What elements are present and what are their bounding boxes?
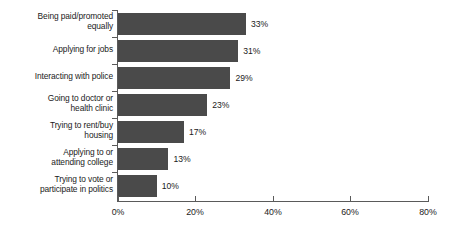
category-label: Trying to vote or participate in politic… xyxy=(0,174,113,195)
x-axis-tick-label: 60% xyxy=(341,207,359,217)
bar-value-label: 23% xyxy=(212,100,229,110)
x-axis-tick xyxy=(428,196,429,202)
bar xyxy=(118,121,184,143)
bar xyxy=(118,67,230,89)
category-label: Applying to or attending college xyxy=(0,147,113,168)
bar xyxy=(118,175,157,197)
x-axis-tick xyxy=(350,196,351,202)
bar xyxy=(118,13,246,35)
bar xyxy=(118,148,168,170)
category-label: Interacting with police xyxy=(0,71,113,81)
x-axis-tick xyxy=(118,196,119,202)
bar-value-label: 17% xyxy=(189,127,206,137)
category-label: Trying to rent/buy housing xyxy=(0,120,113,141)
bar xyxy=(118,94,207,116)
category-label: Applying for jobs xyxy=(0,44,113,54)
bar-value-label: 10% xyxy=(162,181,179,191)
x-axis-tick-label: 80% xyxy=(419,207,437,217)
category-axis-labels: Being paid/promoted equally Applying for… xyxy=(0,10,113,201)
x-axis-tick xyxy=(195,196,196,202)
category-label: Being paid/promoted equally xyxy=(0,11,113,32)
bar-value-label: 31% xyxy=(243,46,260,56)
horizontal-bar-chart: Being paid/promoted equally Applying for… xyxy=(0,0,459,232)
plot-area: 33% 31% 29% 23% 17% 13% 10% xyxy=(118,10,459,201)
x-axis-tick-label: 40% xyxy=(264,207,282,217)
x-axis-tick-label: 0% xyxy=(112,207,125,217)
x-axis-tick-label: 20% xyxy=(186,207,204,217)
bar-value-label: 29% xyxy=(235,73,252,83)
bar-value-label: 13% xyxy=(173,154,190,164)
bar-value-label: 33% xyxy=(251,19,268,29)
category-label: Going to doctor or health clinic xyxy=(0,93,113,114)
x-axis-tick xyxy=(273,196,274,202)
bar xyxy=(118,40,238,62)
